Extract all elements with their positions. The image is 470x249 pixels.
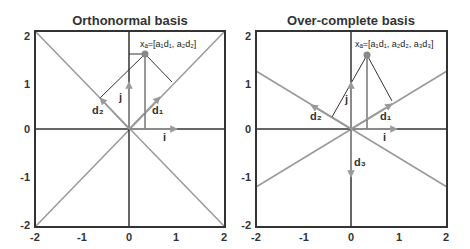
x-tick: -1 — [77, 231, 87, 243]
projection-line — [145, 54, 172, 82]
d1-label: d₁ — [152, 104, 164, 116]
panel-title: Over-complete basis — [287, 13, 415, 28]
y-tick: -2 — [20, 219, 30, 231]
figure: Orthonormal basis xₐ=[a₁d₁, a₂d₂] d₁ d₂ … — [0, 0, 470, 249]
x-tick: -2 — [251, 231, 261, 243]
xd-point — [364, 52, 371, 59]
x-tick: -1 — [299, 231, 309, 243]
y-tick: -2 — [241, 219, 251, 231]
x-tick: -2 — [30, 231, 40, 243]
d2-vector — [100, 98, 129, 129]
x-tick: 0 — [348, 231, 354, 243]
x-tick: 1 — [396, 231, 402, 243]
d2-label: d₂ — [92, 104, 104, 116]
y-tick: 0 — [24, 123, 30, 135]
x-tick: 2 — [443, 231, 449, 243]
j-label: j — [118, 91, 122, 103]
projection-line — [332, 55, 367, 117]
xd-point — [142, 51, 149, 58]
d1-label: d₁ — [380, 110, 392, 122]
d3-label: d₃ — [354, 156, 366, 168]
projection-line — [100, 54, 145, 98]
j-label: j — [344, 93, 348, 105]
projection-line — [367, 55, 392, 101]
y-tick: 1 — [24, 78, 30, 90]
y-tick: -1 — [241, 171, 251, 183]
xd-annotation: xₐ=[a₁d₁, a₂d₂, a₃d₃] — [355, 39, 434, 49]
y-tick: 2 — [24, 30, 30, 42]
y-tick: 0 — [245, 123, 251, 135]
i-label: i — [163, 131, 166, 143]
x-tick: 0 — [126, 231, 132, 243]
xd-annotation: xₐ=[a₁d₁, a₂d₂] — [140, 39, 196, 49]
y-tick: 1 — [245, 78, 251, 90]
i-label: i — [383, 131, 386, 143]
panel-title: Orthonormal basis — [72, 13, 188, 28]
y-tick: 2 — [245, 30, 251, 42]
orthonormal-panel: Orthonormal basis xₐ=[a₁d₁, a₂d₂] d₁ d₂ … — [20, 13, 227, 243]
over-complete-panel: Over-complete basis xₐ=[a₁d₁, a₂d₂, a₃d₃… — [241, 13, 449, 243]
y-tick: -1 — [20, 171, 30, 183]
d2-label: d₂ — [310, 110, 322, 122]
x-tick: 2 — [221, 231, 227, 243]
x-tick: 1 — [173, 231, 179, 243]
